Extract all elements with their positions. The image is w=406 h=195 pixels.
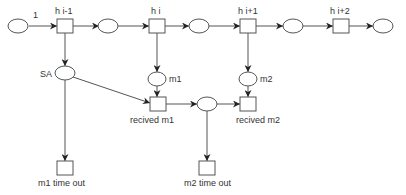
label-sa: SA: [40, 69, 52, 79]
transition-m2-time-out: [199, 161, 215, 175]
place-m1: [148, 72, 166, 86]
place-sa: [55, 66, 75, 80]
label-h-i: h i: [151, 6, 161, 16]
label-m2-time-out: m2 time out: [184, 178, 232, 188]
label-recived-m2: recived m2: [236, 115, 280, 125]
petri-net-diagram: 1 h i-1 h i h i+1 h i+2 SA m1 m2 recived…: [0, 0, 406, 195]
label-h-i+2: h i+2: [330, 6, 350, 16]
label-m1: m1: [169, 74, 182, 84]
arc-sa-recm1: [73, 77, 150, 103]
place-5: [373, 19, 393, 33]
transition-h-i: [149, 19, 165, 33]
place-3: [189, 19, 209, 33]
transition-h-i-1: [57, 19, 73, 33]
transition-m1-time-out: [57, 161, 73, 175]
transition-h-i+1: [240, 19, 256, 33]
transition-recived-m2: [240, 97, 256, 111]
label-m1-time-out: m1 time out: [38, 178, 86, 188]
transition-recived-m1: [150, 97, 166, 111]
place-m2: [239, 72, 257, 86]
place-2: [98, 19, 118, 33]
place-middle: [197, 97, 217, 111]
label-place-1: 1: [33, 10, 38, 20]
label-recived-m1: recived m1: [130, 115, 174, 125]
arcs: [29, 26, 373, 161]
place-1: [8, 19, 28, 33]
label-m2: m2: [260, 74, 273, 84]
label-h-i-1: h i-1: [55, 6, 73, 16]
transition-h-i+2: [333, 19, 349, 33]
place-4: [283, 19, 303, 33]
label-h-i+1: h i+1: [238, 6, 258, 16]
